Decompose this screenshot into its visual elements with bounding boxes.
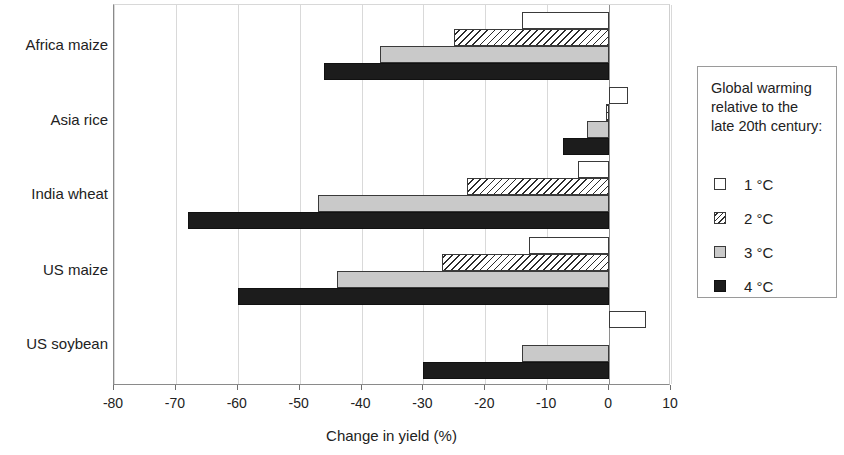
x-tick-10 (670, 385, 671, 390)
x-tick--70 (175, 385, 176, 390)
chart-legend: Global warming relative to the late 20th… (697, 66, 837, 298)
x-tick-0 (608, 385, 609, 390)
legend-swatch-icon-1 (714, 178, 726, 190)
bar (587, 121, 609, 138)
gridline--50 (300, 5, 301, 384)
legend-swatch-icon-4 (714, 280, 726, 292)
legend-swatch-icon-2 (714, 212, 726, 224)
gridline--80 (114, 5, 115, 384)
y-axis-label-india-wheat: India wheat (4, 186, 108, 201)
bar (522, 12, 609, 29)
bar (609, 87, 628, 104)
bar (563, 138, 609, 155)
x-tick-label--10: -10 (524, 396, 568, 410)
legend-title: Global warming relative to the late 20th… (711, 79, 833, 136)
y-axis-category-labels: Africa maizeAsia riceIndia wheatUS maize… (0, 0, 108, 385)
bar (423, 362, 609, 379)
bar (606, 104, 609, 121)
bar (467, 178, 609, 195)
bar (578, 161, 609, 178)
legend-swatch-icon-3 (714, 246, 726, 258)
y-axis-label-us-soybean: US soybean (4, 336, 108, 351)
legend-item-2[interactable]: 2 °C (714, 209, 824, 227)
x-tick-label-0: 0 (586, 396, 630, 410)
x-tick--50 (299, 385, 300, 390)
legend-title-line-3: late 20th century: (711, 118, 822, 134)
bar (337, 271, 609, 288)
bar (454, 29, 609, 46)
legend-item-label: 3 °C (744, 244, 773, 261)
bar (522, 345, 609, 362)
bar (442, 254, 609, 271)
x-tick-label--20: -20 (462, 396, 506, 410)
legend-item-3[interactable]: 3 °C (714, 243, 824, 261)
x-tick-label-10: 10 (648, 396, 692, 410)
bar (380, 46, 609, 63)
legend-item-label: 4 °C (744, 278, 773, 295)
bar (188, 212, 609, 229)
x-tick-label--50: -50 (277, 396, 321, 410)
x-tick--30 (422, 385, 423, 390)
plot-area (113, 4, 670, 385)
x-tick-label--80: -80 (91, 396, 135, 410)
y-axis-label-asia-rice: Asia rice (4, 112, 108, 127)
x-tick-label--70: -70 (153, 396, 197, 410)
x-tick--40 (361, 385, 362, 390)
x-tick--10 (546, 385, 547, 390)
y-axis-label-africa-maize: Africa maize (4, 37, 108, 52)
x-tick--60 (237, 385, 238, 390)
x-tick-label--30: -30 (400, 396, 444, 410)
y-axis-label-us-maize: US maize (4, 262, 108, 277)
bar (324, 63, 609, 80)
x-axis-title: Change in yield (%) (113, 427, 670, 444)
x-tick--80 (113, 385, 114, 390)
legend-item-4[interactable]: 4 °C (714, 277, 824, 295)
bar (609, 311, 646, 328)
x-tick-label--40: -40 (339, 396, 383, 410)
chart-figure: Africa maizeAsia riceIndia wheatUS maize… (0, 0, 844, 455)
legend-title-line-2: relative to the (711, 99, 798, 115)
gridline--70 (176, 5, 177, 384)
legend-item-label: 1 °C (744, 176, 773, 193)
gridline--60 (238, 5, 239, 384)
x-tick-label--60: -60 (215, 396, 259, 410)
legend-item-1[interactable]: 1 °C (714, 175, 824, 193)
bar (238, 288, 609, 305)
legend-item-label: 2 °C (744, 210, 773, 227)
bar (529, 237, 609, 254)
legend-title-line-1: Global warming (711, 80, 812, 96)
x-tick--20 (484, 385, 485, 390)
gridline-10 (671, 5, 672, 384)
bar (318, 195, 609, 212)
